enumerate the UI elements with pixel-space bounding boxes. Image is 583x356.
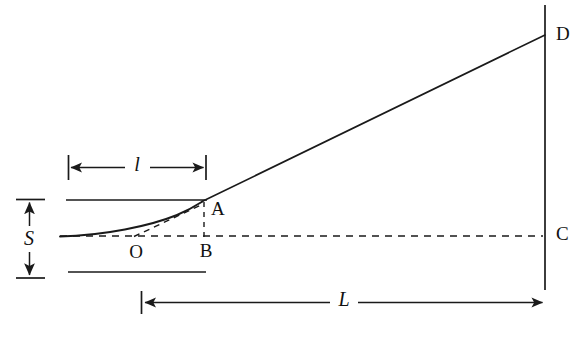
point-label-c: C (556, 223, 569, 244)
dim-s-label: S (24, 227, 34, 249)
dim-large-l-label: L (337, 288, 349, 310)
deflection-diagram: l L S A B O C D (0, 0, 583, 356)
point-label-a: A (211, 198, 225, 219)
point-label-d: D (556, 23, 570, 44)
dim-small-l-label: l (134, 153, 140, 175)
point-label-o: O (129, 241, 143, 262)
point-label-b: B (200, 240, 213, 261)
diagram-canvas: l L S A B O C D (0, 0, 583, 356)
